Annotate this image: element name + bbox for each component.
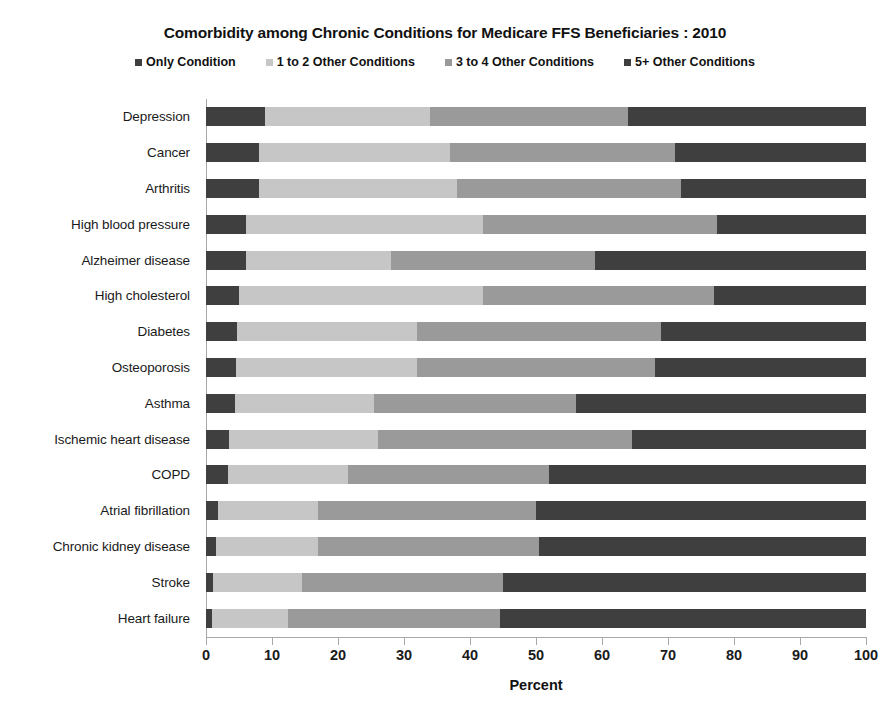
x-tick-label: 80 xyxy=(726,647,742,663)
bar-segment[interactable] xyxy=(374,394,575,413)
bar-row[interactable] xyxy=(206,278,866,314)
legend-item[interactable]: 5+ Other Conditions xyxy=(624,55,755,69)
bar-segment[interactable] xyxy=(246,215,484,234)
bar-segment[interactable] xyxy=(206,537,216,556)
bar-segment[interactable] xyxy=(228,465,348,484)
bar-segment[interactable] xyxy=(206,107,265,126)
bar-segment[interactable] xyxy=(483,215,717,234)
x-tick-mark xyxy=(602,637,603,645)
bar-segment[interactable] xyxy=(681,179,866,198)
bar-segment[interactable] xyxy=(229,430,378,449)
bar-segment[interactable] xyxy=(206,286,239,305)
bar-segment[interactable] xyxy=(536,501,866,520)
bar-segment[interactable] xyxy=(348,465,549,484)
bar-segment[interactable] xyxy=(206,215,246,234)
x-axis-title: Percent xyxy=(206,677,866,693)
bar-segment[interactable] xyxy=(500,609,866,628)
bar-segment[interactable] xyxy=(206,501,218,520)
bar-segment[interactable] xyxy=(288,609,499,628)
bar-segment[interactable] xyxy=(378,430,632,449)
bar-segment[interactable] xyxy=(483,286,714,305)
bar-segment[interactable] xyxy=(237,322,417,341)
x-tick-label: 60 xyxy=(594,647,610,663)
x-tick-label: 30 xyxy=(396,647,412,663)
bar-row[interactable] xyxy=(206,529,866,565)
bar-segment[interactable] xyxy=(539,537,866,556)
bar-segment[interactable] xyxy=(549,465,866,484)
y-axis-label: Asthma xyxy=(0,385,198,421)
bar-segment[interactable] xyxy=(213,573,302,592)
bar-segment[interactable] xyxy=(218,501,318,520)
bar-segment[interactable] xyxy=(595,251,866,270)
bar-segment[interactable] xyxy=(632,430,866,449)
bar-segment[interactable] xyxy=(457,179,681,198)
chart-title: Comorbidity among Chronic Conditions for… xyxy=(0,24,890,42)
x-tick-mark xyxy=(536,637,537,645)
bar-segment[interactable] xyxy=(318,501,536,520)
bar-row[interactable] xyxy=(206,421,866,457)
stacked-bar xyxy=(206,573,866,592)
bar-row[interactable] xyxy=(206,135,866,171)
bar-segment[interactable] xyxy=(302,573,503,592)
stacked-bar xyxy=(206,537,866,556)
bar-row[interactable] xyxy=(206,457,866,493)
bar-segment[interactable] xyxy=(239,286,483,305)
bar-segment[interactable] xyxy=(206,179,259,198)
bar-segment[interactable] xyxy=(576,394,866,413)
bar-segment[interactable] xyxy=(259,179,457,198)
y-axis-label: High blood pressure xyxy=(0,206,198,242)
bar-segment[interactable] xyxy=(206,322,237,341)
y-axis-label: Ischemic heart disease xyxy=(0,421,198,457)
bar-segment[interactable] xyxy=(206,358,236,377)
bar-segment[interactable] xyxy=(265,107,430,126)
y-axis-label: Atrial fibrillation xyxy=(0,493,198,529)
bar-row[interactable] xyxy=(206,242,866,278)
bar-segment[interactable] xyxy=(450,143,674,162)
bar-segment[interactable] xyxy=(206,430,229,449)
bar-segment[interactable] xyxy=(655,358,866,377)
bar-segment[interactable] xyxy=(391,251,596,270)
bar-row[interactable] xyxy=(206,171,866,207)
bar-segment[interactable] xyxy=(246,251,391,270)
bar-segment[interactable] xyxy=(675,143,866,162)
bar-segment[interactable] xyxy=(235,394,374,413)
bar-segment[interactable] xyxy=(430,107,628,126)
x-tick-mark xyxy=(338,637,339,645)
x-tick-label: 100 xyxy=(854,647,878,663)
legend-swatch-icon xyxy=(135,59,142,66)
bar-row[interactable] xyxy=(206,493,866,529)
bar-row[interactable] xyxy=(206,350,866,386)
bar-row[interactable] xyxy=(206,314,866,350)
legend-item[interactable]: 3 to 4 Other Conditions xyxy=(445,55,594,69)
bar-segment[interactable] xyxy=(206,394,235,413)
legend-item[interactable]: Only Condition xyxy=(135,55,236,69)
stacked-bar xyxy=(206,609,866,628)
bar-segment[interactable] xyxy=(417,358,655,377)
bar-segment[interactable] xyxy=(714,286,866,305)
bar-segment[interactable] xyxy=(236,358,418,377)
bar-segment[interactable] xyxy=(318,537,539,556)
bar-segment[interactable] xyxy=(628,107,866,126)
legend-item[interactable]: 1 to 2 Other Conditions xyxy=(266,55,415,69)
bar-row[interactable] xyxy=(206,385,866,421)
x-tick-label: 90 xyxy=(792,647,808,663)
bar-segment[interactable] xyxy=(417,322,661,341)
bar-row[interactable] xyxy=(206,99,866,135)
bar-segment[interactable] xyxy=(206,143,259,162)
bar-row[interactable] xyxy=(206,600,866,636)
bar-row[interactable] xyxy=(206,206,866,242)
bar-segment[interactable] xyxy=(216,537,318,556)
bar-segment[interactable] xyxy=(206,573,213,592)
bar-segment[interactable] xyxy=(206,251,246,270)
legend-swatch-icon xyxy=(624,59,631,66)
bar-segment[interactable] xyxy=(717,215,866,234)
x-tick-label: 10 xyxy=(264,647,280,663)
legend-label: 3 to 4 Other Conditions xyxy=(456,55,594,69)
bar-segment[interactable] xyxy=(212,609,289,628)
bar-segment[interactable] xyxy=(661,322,866,341)
x-tick-label: 0 xyxy=(202,647,210,663)
bar-segment[interactable] xyxy=(503,573,866,592)
bar-segment[interactable] xyxy=(206,465,228,484)
bar-row[interactable] xyxy=(206,564,866,600)
bar-segment[interactable] xyxy=(259,143,450,162)
